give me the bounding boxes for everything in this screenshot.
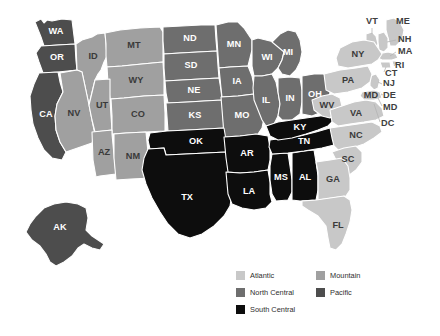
state-label-wy: WY: [129, 75, 144, 85]
state-label-co: CO: [131, 109, 145, 119]
state-label-or: OR: [50, 52, 64, 62]
us-map-svg: WAORCANVIDMTWYUTCOAZNMNDSDNEKSMNIAMOWIIL…: [0, 0, 440, 275]
us-regions-map-figure: WAORCANVIDMTWYUTCOAZNMNDSDNEKSMNIAMOWIIL…: [0, 0, 440, 336]
state-fl[interactable]: [302, 196, 352, 250]
legend-item-mountain[interactable]: Mountain: [316, 268, 360, 283]
state-label-me: ME: [396, 16, 410, 26]
state-label-pa: PA: [342, 75, 354, 85]
state-label-mo: MO: [235, 110, 250, 120]
legend-swatch-icon: [236, 288, 245, 297]
state-label-sc: SC: [342, 154, 355, 164]
state-label-oh: OH: [308, 89, 322, 99]
legend-label: South Central: [250, 305, 295, 314]
state-label-wi: WI: [261, 52, 272, 62]
state-ak[interactable]: [26, 202, 104, 266]
legend-swatch-icon: [236, 305, 245, 314]
state-label-ak: AK: [53, 222, 67, 232]
state-label-mt: MT: [127, 40, 141, 50]
legend-swatch-icon: [316, 271, 325, 280]
state-label-il: IL: [262, 95, 271, 105]
state-nh[interactable]: [378, 32, 388, 52]
state-label-ma: MA: [398, 46, 413, 56]
legend-label: Mountain: [330, 271, 360, 280]
state-label-la: LA: [243, 186, 256, 196]
state-label-al: AL: [299, 172, 312, 182]
legend-item-pacific[interactable]: Pacific: [316, 285, 360, 300]
state-label-wv: WV: [320, 100, 336, 110]
state-label-va: VA: [350, 108, 362, 118]
state-label-nm: NM: [126, 151, 141, 161]
legend-column-2: MountainPacific: [316, 268, 360, 302]
state-label-ca: CA: [39, 109, 53, 119]
state-label-tn: TN: [298, 136, 311, 146]
state-label-ga: GA: [326, 174, 340, 184]
state-label-sd: SD: [185, 60, 198, 70]
state-label-de: DE: [383, 90, 396, 100]
legend: AtlanticNorth CentralSouth Central Mount…: [236, 268, 436, 330]
state-label-in: IN: [285, 93, 295, 103]
state-label-ia: IA: [232, 76, 242, 86]
legend-item-north-central[interactable]: North Central: [236, 285, 295, 300]
state-label-ks: KS: [189, 110, 202, 120]
state-label-nv: NV: [68, 108, 82, 118]
state-label-ut: UT: [96, 100, 109, 110]
state-label-md: MD: [383, 102, 398, 112]
map-canvas: WAORCANVIDMTWYUTCOAZNMNDSDNEKSMNIAMOWIIL…: [0, 0, 440, 275]
state-label-dc: DC: [381, 118, 395, 128]
legend-swatch-icon: [316, 288, 325, 297]
state-label-ky: KY: [294, 122, 307, 132]
state-label-nc: NC: [349, 130, 363, 140]
state-label-id: ID: [88, 51, 98, 61]
state-label-vt: VT: [366, 16, 378, 26]
state-label-mi: MI: [283, 47, 293, 57]
state-label-az: AZ: [98, 147, 111, 157]
state-label-ny: NY: [352, 49, 365, 59]
state-label-ok: OK: [189, 136, 203, 146]
legend-label: Atlantic: [250, 271, 274, 280]
state-label-tx: TX: [181, 192, 194, 202]
legend-label: Pacific: [330, 288, 352, 297]
state-label-ar: AR: [240, 148, 254, 158]
state-label-ct: CT: [385, 68, 398, 78]
state-label-md: MD: [364, 90, 379, 100]
state-label-ms: MS: [274, 172, 288, 182]
state-label-wa: WA: [49, 26, 64, 36]
state-ct[interactable]: [380, 62, 391, 68]
legend-label: North Central: [250, 288, 294, 297]
legend-item-atlantic[interactable]: Atlantic: [236, 268, 295, 283]
state-label-nj: NJ: [383, 78, 395, 88]
legend-swatch-icon: [236, 271, 245, 280]
state-label-nh: NH: [398, 34, 412, 44]
legend-column-1: AtlanticNorth CentralSouth Central: [236, 268, 295, 319]
state-label-fl: FL: [332, 220, 344, 230]
state-label-nd: ND: [183, 33, 197, 43]
state-label-mn: MN: [227, 39, 242, 49]
state-label-ne: NE: [188, 85, 201, 95]
state-shapes-group: [26, 18, 404, 275]
legend-item-south-central[interactable]: South Central: [236, 302, 295, 317]
